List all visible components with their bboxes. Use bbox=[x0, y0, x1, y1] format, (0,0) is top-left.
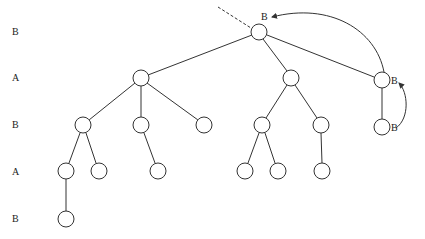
tree-node bbox=[314, 163, 330, 179]
tree-node bbox=[133, 70, 149, 86]
tree-node bbox=[374, 119, 390, 135]
tree-node-root bbox=[251, 24, 267, 40]
tree-nodes bbox=[58, 24, 390, 227]
tree-node bbox=[75, 117, 91, 133]
right-node-label: B bbox=[391, 75, 398, 86]
level-label: B bbox=[12, 26, 19, 37]
edge-root-a2 bbox=[263, 39, 287, 71]
tree-node bbox=[254, 117, 270, 133]
tree-node bbox=[283, 70, 299, 86]
tree-node bbox=[270, 163, 286, 179]
edge-a1-b1 bbox=[89, 83, 135, 120]
level-label: A bbox=[12, 166, 20, 177]
edge-b4-c4 bbox=[248, 133, 259, 163]
tree-node bbox=[313, 117, 329, 133]
dashed-parent-edge bbox=[218, 7, 251, 28]
edge-b5-c6 bbox=[321, 133, 322, 163]
level-label: B bbox=[12, 213, 19, 224]
edge-root-a1 bbox=[148, 35, 252, 75]
edge-a2-b5 bbox=[295, 85, 317, 118]
level-labels: B A B A B bbox=[12, 26, 20, 224]
curved-arrow-icon bbox=[272, 13, 384, 72]
edge-b1-c2 bbox=[86, 133, 96, 163]
game-tree-diagram: B B B B A B A B bbox=[0, 0, 425, 239]
edge-b1-c1 bbox=[69, 133, 80, 163]
edge-b2-c3 bbox=[144, 133, 155, 163]
tree-node bbox=[196, 117, 212, 133]
edge-a2-b4 bbox=[266, 85, 287, 118]
right-child-label: B bbox=[391, 122, 398, 133]
tree-node bbox=[91, 163, 107, 179]
tree-node bbox=[133, 117, 149, 133]
tree-node bbox=[150, 163, 166, 179]
level-label: A bbox=[12, 72, 20, 83]
tree-edges bbox=[66, 7, 382, 211]
level-label: B bbox=[12, 119, 19, 130]
edge-a1-b3 bbox=[147, 83, 198, 120]
edge-root-a3 bbox=[267, 35, 374, 77]
tree-node bbox=[237, 163, 253, 179]
root-node-label: B bbox=[261, 11, 268, 22]
tree-node bbox=[58, 211, 74, 227]
tree-node bbox=[374, 72, 390, 88]
edge-b4-c5 bbox=[265, 133, 275, 163]
tree-node bbox=[58, 163, 74, 179]
